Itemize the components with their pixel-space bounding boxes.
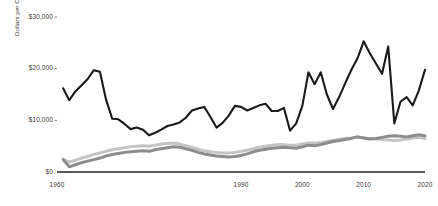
y-axis-tick-marks [55, 17, 58, 120]
x-axis-tick-label: 1960 [37, 182, 77, 189]
x-axis-tick-label: 1990 [221, 182, 261, 189]
x-axis-tick-label: 2010 [344, 182, 384, 189]
y-axis-tick-label: $10,000 [0, 117, 53, 124]
y-axis-tick-label: $0 [0, 169, 53, 176]
x-axis-tick-label: 2000 [282, 182, 322, 189]
chart-plot-area [0, 0, 438, 206]
y-axis-tick-label: $20,000 [0, 65, 53, 72]
x-axis-tick-label: 2020 [405, 182, 438, 189]
line-series-black [63, 41, 425, 135]
series-paths [63, 41, 425, 167]
y-axis-tick-label: $30,000 [0, 14, 53, 21]
chart-container: Dollars per Capita (2020$) $0$10,000$20,… [0, 0, 438, 206]
line-series-light-gray [63, 137, 425, 162]
